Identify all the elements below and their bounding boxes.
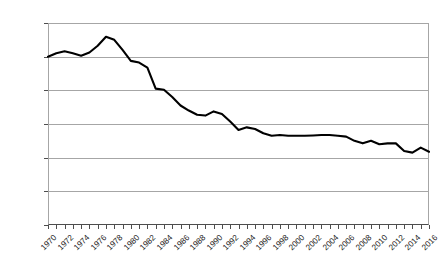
x-tick-label: 1998 <box>271 233 290 252</box>
x-tick-mark <box>131 225 132 229</box>
x-tick-mark <box>288 225 289 229</box>
x-tick-mark <box>106 225 107 229</box>
x-tick-label: 1974 <box>72 233 91 252</box>
x-tick-mark <box>296 225 297 229</box>
x-tick-mark <box>330 225 331 229</box>
x-tick-mark <box>313 225 314 229</box>
x-tick-mark <box>321 225 322 229</box>
x-tick-mark <box>272 225 273 229</box>
x-tick-label: 1984 <box>155 233 174 252</box>
x-tick-mark <box>89 225 90 229</box>
x-tick-mark <box>123 225 124 229</box>
x-tick-mark <box>280 225 281 229</box>
x-tick-mark <box>73 225 74 229</box>
x-tick-label: 2000 <box>288 233 307 252</box>
x-tick-label: 2006 <box>337 233 356 252</box>
x-tick-mark <box>239 225 240 229</box>
x-tick-mark <box>230 225 231 229</box>
x-tick-mark <box>429 225 430 229</box>
x-tick-mark <box>305 225 306 229</box>
x-tick-mark <box>338 225 339 229</box>
x-tick-label: 1986 <box>172 233 191 252</box>
x-tick-label: 1978 <box>105 233 124 252</box>
x-tick-label: 1992 <box>221 233 240 252</box>
x-tick-mark <box>354 225 355 229</box>
x-tick-mark <box>56 225 57 229</box>
x-tick-mark <box>263 225 264 229</box>
y-axis-title: Index (1970 = 100) <box>0 0 18 271</box>
x-tick-label: 2012 <box>387 233 406 252</box>
x-tick-label: 1980 <box>122 233 141 252</box>
x-tick-mark <box>48 225 49 229</box>
x-tick-label: 1970 <box>39 233 58 252</box>
x-tick-mark <box>197 225 198 229</box>
x-tick-label: 2008 <box>354 233 373 252</box>
x-tick-label: 2014 <box>404 233 423 252</box>
x-tick-mark <box>214 225 215 229</box>
x-tick-mark <box>222 225 223 229</box>
x-tick-mark <box>255 225 256 229</box>
x-tick-label: 1988 <box>188 233 207 252</box>
x-tick-mark <box>181 225 182 229</box>
series-line <box>48 37 429 153</box>
x-tick-mark <box>98 225 99 229</box>
x-tick-mark <box>363 225 364 229</box>
x-tick-mark <box>421 225 422 229</box>
x-tick-label: 2010 <box>370 233 389 252</box>
x-tick-label: 1994 <box>238 233 257 252</box>
series-layer <box>48 23 429 225</box>
x-tick-label: 2004 <box>321 233 340 252</box>
x-tick-mark <box>371 225 372 229</box>
x-tick-label: 2002 <box>304 233 323 252</box>
x-tick-label: 1982 <box>139 233 158 252</box>
x-tick-mark <box>412 225 413 229</box>
x-tick-mark <box>396 225 397 229</box>
line-chart: Index (1970 = 100) 020406080100120 19701… <box>0 0 446 271</box>
x-tick-label: 1976 <box>89 233 108 252</box>
x-tick-mark <box>114 225 115 229</box>
x-tick-mark <box>65 225 66 229</box>
x-tick-label: 1990 <box>205 233 224 252</box>
x-tick-mark <box>172 225 173 229</box>
x-tick-mark <box>205 225 206 229</box>
x-tick-mark <box>156 225 157 229</box>
x-tick-mark <box>379 225 380 229</box>
x-tick-label: 2016 <box>420 233 439 252</box>
x-tick-mark <box>404 225 405 229</box>
x-tick-mark <box>247 225 248 229</box>
plot-wrap: 020406080100120 197019721974197619781980… <box>48 23 429 225</box>
x-tick-mark <box>147 225 148 229</box>
x-tick-mark <box>346 225 347 229</box>
x-tick-mark <box>388 225 389 229</box>
x-tick-mark <box>81 225 82 229</box>
x-tick-mark <box>139 225 140 229</box>
x-tick-mark <box>189 225 190 229</box>
x-tick-label: 1972 <box>56 233 75 252</box>
x-tick-label: 1996 <box>254 233 273 252</box>
x-tick-mark <box>164 225 165 229</box>
